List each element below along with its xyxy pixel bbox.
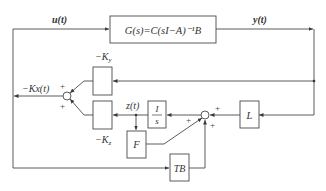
output-to-l-line xyxy=(259,29,314,115)
junction-dot xyxy=(313,80,316,83)
kz-label: −Kz xyxy=(95,134,111,147)
f-block: F xyxy=(127,131,146,158)
input-signal-line xyxy=(13,29,109,168)
left-sum-junction xyxy=(63,92,71,100)
tb-label: TB xyxy=(174,163,186,174)
tb-block: TB xyxy=(170,154,189,181)
f-label: F xyxy=(132,139,140,150)
plant-block: G(s)=C(sI−A)⁻¹B xyxy=(110,16,216,43)
right-sum-sign-f: + xyxy=(186,115,191,125)
plant-label: G(s)=C(sI−A)⁻¹B xyxy=(125,25,202,37)
l-label: L xyxy=(246,110,253,121)
input-label: u(t) xyxy=(52,14,67,26)
tb-to-sum-line xyxy=(189,120,205,168)
kx-label: −Kx(t) xyxy=(22,83,50,95)
kz-to-sum-line xyxy=(70,99,93,115)
right-sum-junction xyxy=(201,111,209,119)
z-label: z(t) xyxy=(125,100,140,112)
left-sum-sign-bottom: + xyxy=(60,101,65,111)
ky-to-sum-line xyxy=(70,81,93,93)
integrator-denominator: s xyxy=(155,116,159,126)
block-diagram: G(s)=C(sI−A)⁻¹B u(t) y(t) −Ky −Kz + + −K… xyxy=(0,0,326,191)
kz-block xyxy=(93,101,112,129)
integrator-block: I s xyxy=(148,101,166,128)
ky-block xyxy=(93,67,112,95)
left-sum-sign-top: + xyxy=(60,81,65,91)
right-sum-sign-tb: + xyxy=(210,120,215,130)
ky-label: −Ky xyxy=(95,51,112,64)
right-sum-sign-l: + xyxy=(215,103,220,113)
output-label: y(t) xyxy=(252,14,267,26)
l-block: L xyxy=(240,101,259,128)
